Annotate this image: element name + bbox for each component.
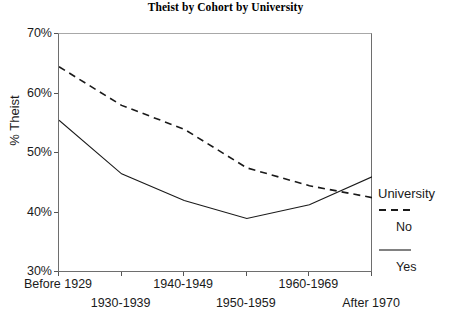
y-axis-tick-label: 70% (6, 26, 52, 40)
x-axis-tick-label: Before 1929 (24, 277, 92, 291)
x-axis-tick-label: 1940-1949 (153, 277, 213, 291)
legend-swatch-yes (378, 246, 412, 254)
x-axis-tick-label: After 1970 (342, 296, 400, 310)
plot-area (58, 33, 372, 272)
y-axis-tick-label: 50% (6, 145, 52, 159)
y-axis-tick-label: 30% (6, 264, 52, 278)
legend-label: No (396, 220, 412, 234)
legend-label: Yes (396, 260, 416, 274)
series-line-yes (59, 120, 372, 218)
series-lines (59, 34, 372, 272)
legend-title: University (378, 186, 435, 201)
series-line-no (59, 67, 372, 198)
x-axis-tick-label: 1960-1969 (279, 277, 339, 291)
y-axis-tick-label: 40% (6, 205, 52, 219)
x-axis-tick-label: 1950-1959 (216, 296, 276, 310)
y-axis-tick-label: 60% (6, 86, 52, 100)
x-axis-tick-label: 1930-1939 (91, 296, 151, 310)
chart-title: Theist by Cohort by University (0, 1, 451, 13)
legend-swatch-no (378, 206, 412, 214)
chart-container: Theist by Cohort by University % Theist … (0, 0, 451, 324)
